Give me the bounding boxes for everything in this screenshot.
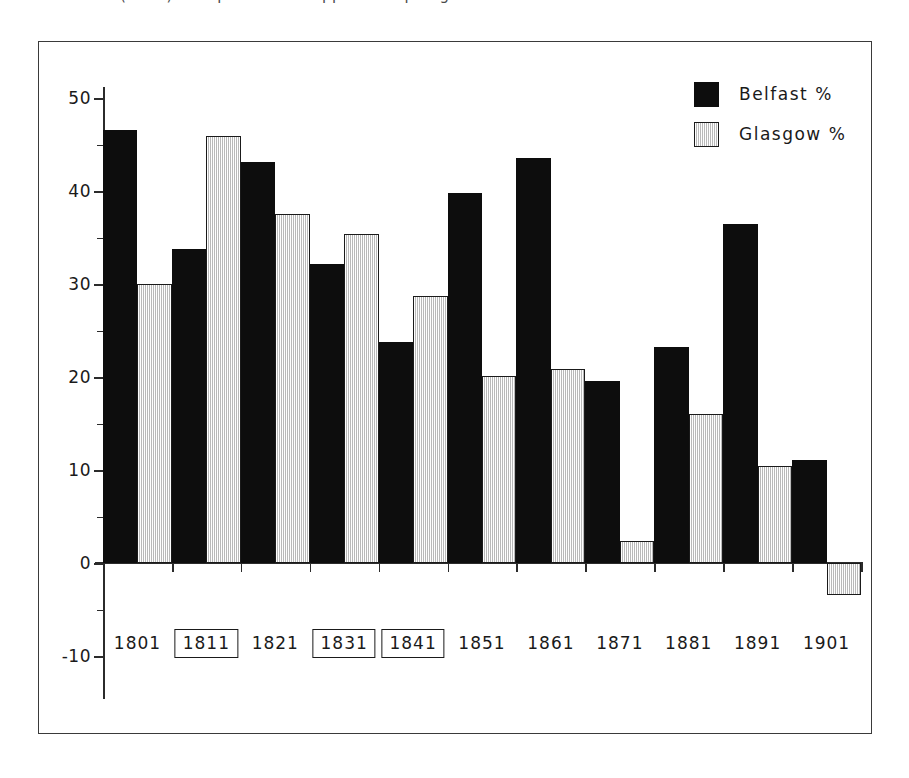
y-axis-tick-label-20: 20 xyxy=(45,367,91,387)
y-axis-tick-label-10: 10 xyxy=(45,460,91,480)
x-axis-tick-1 xyxy=(172,563,174,572)
bar-belfast-1871 xyxy=(585,381,619,563)
legend-row-0: Belfast % xyxy=(694,74,846,114)
y-axis-minor-tick--5 xyxy=(97,610,103,612)
x-axis-tick-label-1831: 1831 xyxy=(313,629,376,658)
y-axis-tick-30 xyxy=(94,284,103,286)
y-axis-tick--10 xyxy=(94,656,103,658)
bar-belfast-1841 xyxy=(379,342,413,563)
x-axis-tick-label-1841: 1841 xyxy=(381,629,444,658)
bar-belfast-1901 xyxy=(792,460,826,563)
caption-text: (cont.) — caption row cropped at top edg… xyxy=(120,0,573,4)
x-axis-tick-4 xyxy=(379,563,381,572)
bar-belfast-1861 xyxy=(516,158,550,563)
bar-glasgow-1901 xyxy=(827,563,861,595)
x-axis-tick-label-1881: 1881 xyxy=(657,629,720,658)
x-axis-tick-label-1801: 1801 xyxy=(106,629,169,658)
bar-glasgow-1881 xyxy=(689,414,723,563)
legend-swatch-glasgow xyxy=(694,122,719,147)
x-axis-tick-label-1821: 1821 xyxy=(244,629,307,658)
cropped-caption-sliver: (cont.) — caption row cropped at top edg… xyxy=(0,0,909,10)
chart-legend: Belfast %Glasgow % xyxy=(694,74,846,154)
x-axis-tick-11 xyxy=(861,563,863,572)
legend-label-belfast: Belfast % xyxy=(739,84,833,104)
bar-glasgow-1821 xyxy=(275,214,309,563)
bar-belfast-1801 xyxy=(103,130,137,563)
x-axis-tick-label-1811: 1811 xyxy=(175,629,238,658)
bar-glasgow-1841 xyxy=(413,296,447,563)
bar-belfast-1831 xyxy=(310,264,344,563)
bar-belfast-1881 xyxy=(654,347,688,563)
x-axis-tick-7 xyxy=(585,563,587,572)
bar-glasgow-1831 xyxy=(344,234,378,563)
y-axis-tick-10 xyxy=(94,470,103,472)
y-axis-tick-40 xyxy=(94,191,103,193)
legend-swatch-belfast xyxy=(694,82,719,107)
bar-glasgow-1871 xyxy=(620,541,654,563)
bar-belfast-1891 xyxy=(723,224,757,563)
x-axis-tick-0 xyxy=(103,563,105,572)
y-axis-tick-50 xyxy=(94,98,103,100)
bar-glasgow-1861 xyxy=(551,369,585,563)
y-axis-tick-label-50: 50 xyxy=(45,88,91,108)
x-axis-tick-2 xyxy=(241,563,243,572)
x-axis-tick-9 xyxy=(723,563,725,572)
bar-belfast-1851 xyxy=(448,193,482,563)
x-axis-tick-6 xyxy=(516,563,518,572)
bar-glasgow-1801 xyxy=(137,284,171,563)
y-axis-tick-0 xyxy=(94,563,103,565)
x-axis-tick-label-1891: 1891 xyxy=(726,629,789,658)
bar-belfast-1811 xyxy=(172,249,206,563)
bar-glasgow-1811 xyxy=(206,136,240,563)
bar-glasgow-1851 xyxy=(482,376,516,563)
legend-label-glasgow: Glasgow % xyxy=(739,124,846,144)
x-axis-tick-8 xyxy=(654,563,656,572)
legend-row-1: Glasgow % xyxy=(694,114,846,154)
y-axis-tick-label--10: -10 xyxy=(45,646,91,666)
plot-area: -1001020304050 1801181118211831184118511… xyxy=(39,42,873,735)
y-axis-tick-20 xyxy=(94,377,103,379)
x-axis-tick-label-1851: 1851 xyxy=(450,629,513,658)
y-axis-tick-label-0: 0 xyxy=(45,553,91,573)
x-axis-tick-5 xyxy=(448,563,450,572)
bar-belfast-1821 xyxy=(241,162,275,563)
x-axis-tick-10 xyxy=(792,563,794,572)
x-axis-tick-label-1861: 1861 xyxy=(519,629,582,658)
x-axis-tick-label-1901: 1901 xyxy=(795,629,858,658)
x-axis-tick-3 xyxy=(310,563,312,572)
x-axis-tick-label-1871: 1871 xyxy=(588,629,651,658)
bar-glasgow-1891 xyxy=(758,466,792,563)
y-axis-tick-label-40: 40 xyxy=(45,181,91,201)
y-axis-tick-label-30: 30 xyxy=(45,274,91,294)
figure-frame: -1001020304050 1801181118211831184118511… xyxy=(38,41,872,734)
